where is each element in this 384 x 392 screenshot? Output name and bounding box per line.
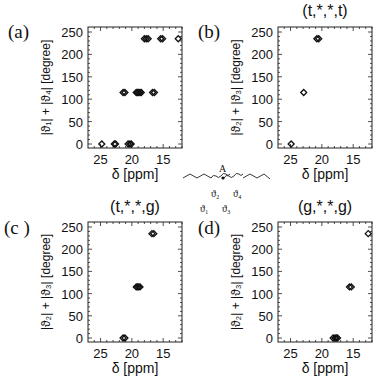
y-axis-label: |ϑ₁| + |ϑ₄| [degree]	[39, 40, 53, 136]
plot-frame	[88, 27, 182, 148]
panel-title: (t,*,*,g)	[110, 198, 160, 215]
panel-d: 252015050100150200250δ [ppm]|ϑ₂| + |ϑ₃| …	[198, 198, 372, 376]
x-axis-label: δ [ppm]	[302, 360, 349, 376]
x-axis-label: δ [ppm]	[112, 166, 159, 182]
y-axis-label: |ϑ₂| + |ϑ₃| [degree]	[229, 234, 243, 330]
x-tick-label: 15	[346, 152, 360, 167]
panel-a: 252015050100150200250δ [ppm]|ϑ₁| + |ϑ₄| …	[8, 21, 182, 182]
y-tick-label: 50	[69, 309, 83, 324]
x-axis-label: δ [ppm]	[302, 166, 349, 182]
y-tick-label: 0	[266, 331, 273, 346]
y-tick-label: 100	[251, 92, 273, 107]
y-axis-label: |ϑ₂| + |ϑ₃| [degree]	[229, 39, 243, 135]
y-tick-label: 100	[61, 287, 83, 302]
molecule-chain	[183, 174, 211, 178]
molecule-diagram: A ϑ₂ ϑ₄ ϑ₁ ϑ₃	[183, 163, 270, 214]
x-axis-label: δ [ppm]	[112, 360, 159, 376]
theta-2-label: ϑ₂	[211, 188, 219, 199]
y-tick-label: 100	[61, 92, 83, 107]
y-tick-label: 50	[259, 115, 273, 130]
y-axis-label: |ϑ₂| + |ϑ₃| [degree]	[39, 234, 53, 330]
y-tick-label: 150	[61, 264, 83, 279]
panel-label: (d)	[198, 217, 220, 239]
y-tick-label: 50	[69, 115, 83, 130]
plot-frame	[278, 222, 372, 342]
theta-1-label: ϑ₁	[200, 203, 208, 214]
y-tick-label: 0	[76, 331, 83, 346]
x-tick-label: 20	[315, 152, 329, 167]
data-point	[288, 141, 294, 147]
panel-label: (c )	[4, 217, 30, 239]
panel-title: (g,*,*,g)	[298, 198, 352, 215]
data-point	[301, 89, 307, 95]
panel-c: 252015050100150200250δ [ppm]|ϑ₂| + |ϑ₃| …	[4, 198, 182, 376]
molecule-bonds-right	[224, 173, 243, 178]
x-tick-label: 25	[283, 152, 297, 167]
y-tick-label: 200	[61, 242, 83, 257]
y-tick-label: 150	[251, 264, 273, 279]
x-tick-label: 15	[346, 346, 360, 361]
x-tick-label: 25	[93, 346, 107, 361]
y-tick-label: 150	[61, 70, 83, 85]
x-tick-label: 20	[125, 346, 139, 361]
data-point	[99, 141, 105, 147]
y-tick-label: 0	[76, 137, 83, 152]
y-tick-label: 100	[251, 287, 273, 302]
y-tick-label: 250	[251, 25, 273, 40]
molecule-chain-right	[243, 174, 270, 179]
y-tick-label: 250	[61, 25, 83, 40]
x-tick-label: 25	[93, 152, 107, 167]
panel-label: (b)	[198, 21, 220, 43]
atom-a-label: A	[219, 163, 227, 174]
x-tick-label: 25	[283, 346, 297, 361]
y-tick-label: 200	[251, 242, 273, 257]
y-tick-label: 50	[259, 309, 273, 324]
figure: A ϑ₂ ϑ₄ ϑ₁ ϑ₃ 252015050100150200250δ [pp…	[0, 0, 384, 392]
panel-title: (t,*,*,t)	[302, 2, 347, 19]
y-tick-label: 0	[266, 137, 273, 152]
y-tick-label: 250	[251, 220, 273, 235]
y-tick-label: 200	[251, 47, 273, 62]
plot-frame	[278, 27, 372, 148]
y-tick-label: 250	[61, 220, 83, 235]
theta-3-label: ϑ₃	[222, 203, 230, 214]
panel-label: (a)	[8, 21, 29, 43]
theta-4-label: ϑ₄	[233, 188, 242, 199]
x-tick-label: 20	[125, 152, 139, 167]
x-tick-label: 15	[156, 152, 170, 167]
x-tick-label: 15	[156, 346, 170, 361]
y-tick-label: 150	[251, 70, 273, 85]
panel-b: 252015050100150200250δ [ppm]|ϑ₂| + |ϑ₃| …	[198, 2, 372, 182]
y-tick-label: 200	[61, 47, 83, 62]
x-tick-label: 20	[315, 346, 329, 361]
plot-frame	[88, 222, 182, 342]
